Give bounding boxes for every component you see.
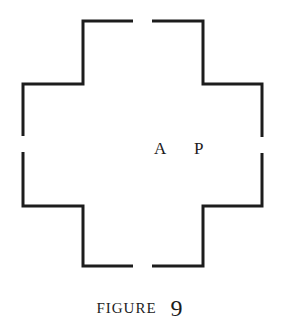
cross-outline <box>23 21 262 266</box>
caption-number: 9 <box>171 295 183 321</box>
cross-figure <box>0 0 283 334</box>
caption-word: FIGURE <box>96 300 156 316</box>
point-label-a: A <box>154 140 166 157</box>
outline-segment-bottom-left <box>23 152 133 266</box>
outline-segment-bottom-right <box>152 153 262 266</box>
outline-segment-top-right <box>152 21 262 137</box>
outline-segment-top-left <box>23 21 133 136</box>
figure-caption: FIGURE9 <box>0 293 283 317</box>
point-label-p: P <box>194 140 203 157</box>
